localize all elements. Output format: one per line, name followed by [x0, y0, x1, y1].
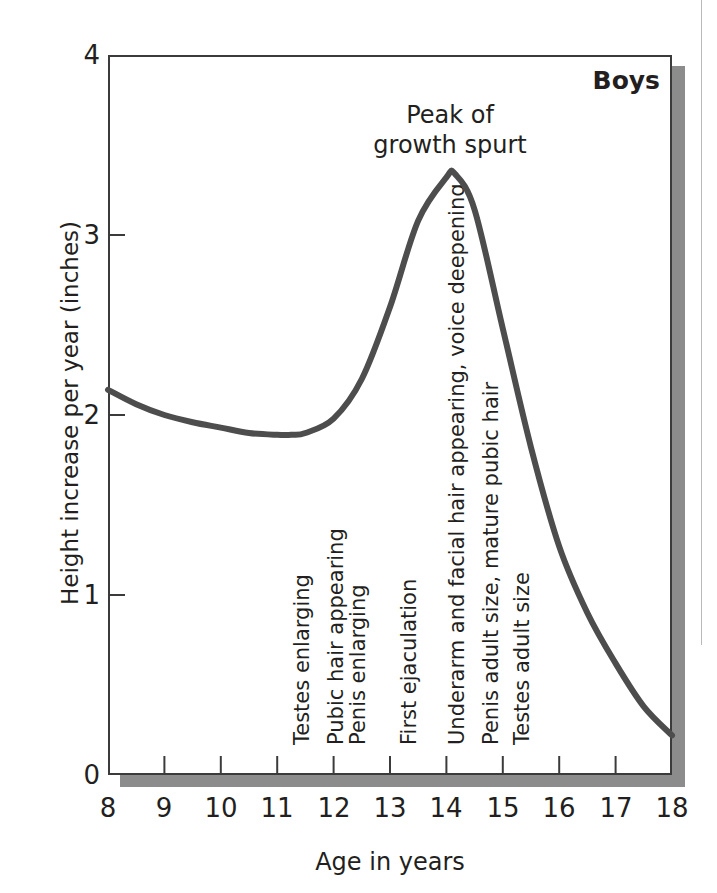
- tick-marks-group: [109, 235, 616, 774]
- plot-svg-layer: [0, 0, 717, 893]
- growth-spurt-chart-figure: 4 3 2 1 0 8 9 10 11 12 13 14 15 16 17 18…: [0, 0, 717, 893]
- growth-velocity-curve: [108, 170, 672, 735]
